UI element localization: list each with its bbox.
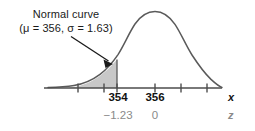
annotation-parameters: (μ = 356, σ = 1.63) xyxy=(10,23,122,34)
normal-curve-figure: Normal curve (μ = 356, σ = 1.63) 354 356… xyxy=(0,0,255,131)
z-axis-label: z xyxy=(228,110,234,121)
z-tick-label-zero: 0 xyxy=(132,110,178,122)
annotation-arrow xyxy=(71,37,113,69)
x-tick-label-356: 356 xyxy=(135,92,175,104)
annotation-title: Normal curve xyxy=(14,9,118,20)
x-axis-label: x xyxy=(228,92,234,103)
x-tick-label-354: 354 xyxy=(98,92,138,104)
